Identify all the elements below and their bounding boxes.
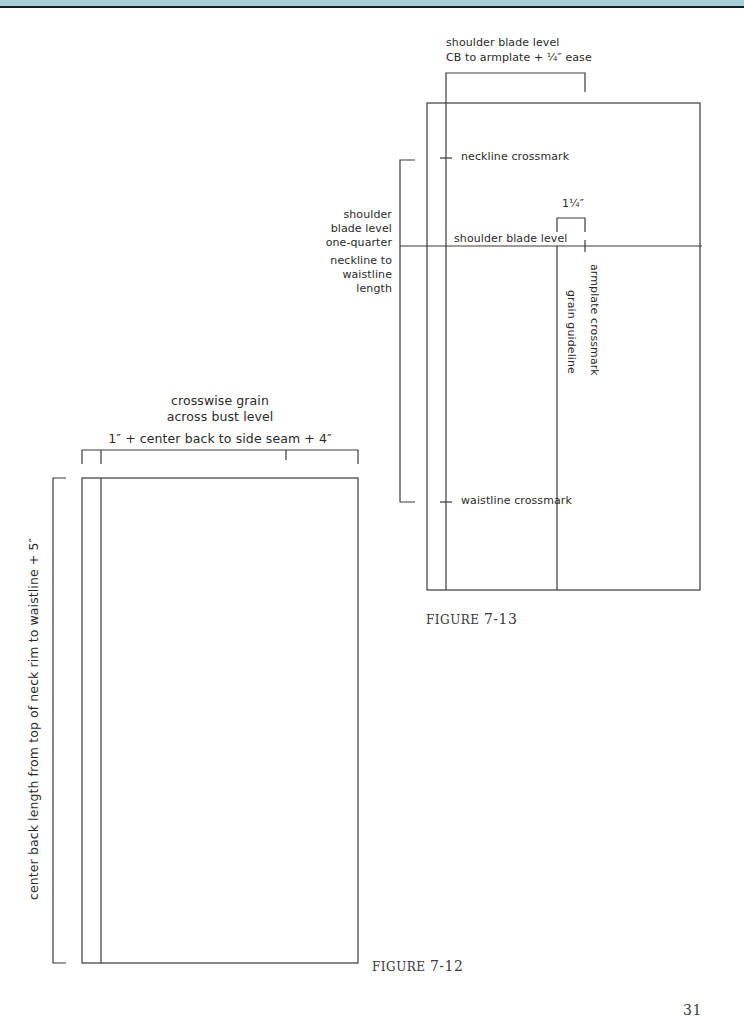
fig13-top-bracket — [446, 73, 585, 92]
fig12-left-bracket — [53, 478, 66, 963]
fig12-outline — [82, 478, 358, 963]
fig12-left-label: center back length from top of neck rim … — [26, 538, 42, 900]
fig13-waistline-label: waistline crossmark — [461, 494, 572, 508]
fig12-top-label-line1: crosswise grain — [120, 393, 320, 409]
fig13-top-label-line1: shoulder blade level — [446, 36, 559, 50]
fig13-neckline-label: neckline crossmark — [461, 150, 569, 164]
fig13-left-bracket — [400, 160, 415, 502]
fig12-caption: FIGURE 7-12 — [372, 958, 463, 974]
fig13-grain-label: grain guideline — [564, 290, 578, 374]
caption-prefix: FIGURE — [372, 960, 426, 974]
fig13-left-label-line: neckline to — [318, 254, 392, 268]
fig13-left-label-line: length — [318, 282, 392, 296]
fig13-left-label-line: shoulder — [318, 208, 392, 222]
fig13-armplate-label: armplate crossmark — [587, 264, 601, 376]
caption-prefix: FIGURE — [426, 613, 480, 627]
caption-number: 7-12 — [430, 958, 463, 974]
fig12-top-label-line2: across bust level — [120, 409, 320, 425]
fig13-left-label-line: waistline — [318, 268, 392, 282]
fig13-shoulder-blade-label: shoulder blade level — [454, 232, 567, 246]
fig13-caption: FIGURE 7-13 — [426, 611, 517, 627]
fig13-left-label-line: one-quarter — [318, 236, 392, 250]
fig13-ease-bracket — [557, 218, 585, 232]
fig13-left-label: shoulder blade level one-quarter necklin… — [318, 208, 392, 296]
fig13-left-label-line: blade level — [318, 222, 392, 236]
fig13-ease-label: 1¼″ — [562, 197, 584, 211]
fig12-top-bracket — [82, 450, 358, 464]
fig12-measure-label: 1″ + center back to side seam + 4″ — [100, 431, 340, 447]
caption-number: 7-13 — [484, 611, 517, 627]
page-number: 31 — [683, 1002, 702, 1018]
fig13-top-label-line2: CB to armplate + ¼″ ease — [446, 51, 592, 65]
